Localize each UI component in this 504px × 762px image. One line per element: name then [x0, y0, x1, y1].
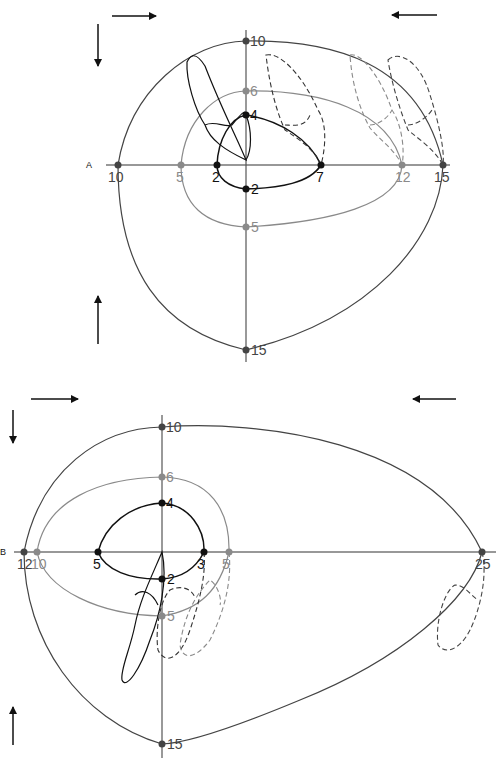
middle-loop [181, 91, 402, 227]
outer-loop [24, 426, 482, 744]
inner-loop [98, 503, 204, 579]
label-inner-left: 5 [93, 556, 101, 572]
label-middle-left: 5 [176, 169, 184, 185]
label-outer-top: 10 [250, 33, 266, 49]
label-middle-top: 6 [250, 83, 258, 99]
tooth-outline-solid [187, 56, 251, 160]
label-middle-left: 10 [31, 556, 47, 572]
label-outer-right: 15 [434, 169, 450, 185]
outer-loop [118, 41, 443, 350]
panel-b: B 10 6 4 12 10 5 3 5 25 2 5 15 [0, 399, 496, 758]
label-inner-left: 2 [212, 169, 220, 185]
panel-letter-b: B [0, 547, 6, 557]
label-inner-right: 7 [316, 169, 324, 185]
label-inner-top: 4 [166, 495, 174, 511]
panel-letter-a: A [86, 160, 92, 170]
inner-loop [217, 115, 321, 189]
label-middle-right: 5 [222, 556, 230, 572]
diagram-canvas: A 10 6 4 10 5 2 7 12 15 2 5 15 [0, 0, 504, 762]
label-outer-right: 25 [475, 556, 491, 572]
label-outer-top: 10 [166, 419, 182, 435]
label-inner-bottom: 2 [251, 181, 259, 197]
tooth-outline-solid [122, 552, 164, 683]
label-middle-right: 12 [395, 169, 411, 185]
label-outer-bottom: 15 [251, 342, 267, 358]
label-inner-top: 4 [250, 107, 258, 123]
label-inner-bottom: 2 [167, 571, 175, 587]
tooth-outline-dashed-dark [266, 55, 325, 165]
label-outer-left: 10 [108, 169, 124, 185]
label-outer-bottom: 15 [167, 736, 183, 752]
label-inner-right: 3 [197, 556, 205, 572]
label-middle-bottom: 5 [251, 219, 259, 235]
panel-a: A 10 6 4 10 5 2 7 12 15 2 5 15 [86, 15, 450, 362]
label-middle-bottom: 5 [167, 608, 175, 624]
label-middle-top: 6 [166, 469, 174, 485]
tooth-outline-dashed-gray [350, 55, 403, 165]
